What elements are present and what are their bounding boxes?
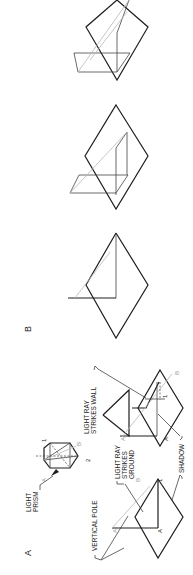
right-point-a-base: A [163, 437, 169, 441]
panel-a: A A B 1 2 LIGHT PRISM VERTICAL POLE [23, 366, 185, 560]
right-point-b: B [174, 371, 180, 375]
callout-ground-line2: STRIKES [121, 451, 128, 479]
shadow-construction-diagram: B A [0, 0, 193, 575]
panel-b-drawing-3 [74, 0, 148, 80]
left-point-a-base: A [157, 529, 163, 533]
prism-point-2: 2 [85, 458, 91, 462]
left-point-a-top: A [112, 529, 118, 533]
callout-vertical-pole: VERTICAL POLE [91, 500, 98, 551]
callout-wall-line2: STRIKES WALL [90, 387, 97, 434]
prism-point-1: 1 [41, 438, 47, 442]
light-prism: A B 1 2 [36, 438, 91, 482]
callout-ground-line3: GROUND [128, 450, 135, 479]
prism-point-b: B [76, 442, 82, 446]
callout-light-prism-line1: LIGHT [25, 493, 32, 512]
prism-point-a: A [41, 478, 47, 482]
panel-b: B [23, 0, 148, 338]
callout-ground-line1: LIGHT RAY [114, 445, 121, 479]
panel-b-label: B [23, 326, 33, 332]
panel-a-drawing-right: A A B 1 [103, 370, 183, 446]
right-point-a-top: A [120, 437, 126, 441]
callout-light-prism-line2: PRISM [32, 491, 39, 512]
left-point-b: B [135, 478, 141, 482]
callout-shadow: SHADOW [178, 443, 185, 473]
panel-a-drawing-left: A A B 1 [112, 478, 183, 558]
right-point-1: 1 [162, 394, 168, 398]
panel-a-label: A [23, 550, 33, 556]
panel-b-drawing-1 [68, 233, 148, 338]
panel-b-drawing-2 [70, 105, 148, 209]
callout-wall-line1: LIGHT RAY [83, 400, 90, 434]
